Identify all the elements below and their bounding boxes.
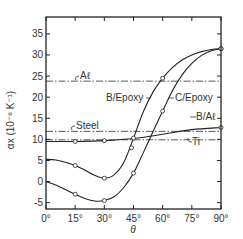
data-point-b-epoxy [73, 164, 77, 168]
x-axis-title: θ [130, 224, 136, 235]
svg-text:Steel: Steel [76, 120, 99, 131]
curves [46, 49, 221, 202]
y-tick-label: 10 [32, 134, 44, 145]
x-tick-label: 0° [41, 213, 51, 224]
data-point-c-epoxy [132, 171, 136, 175]
data-point-b-epoxy [161, 76, 165, 80]
y-tick-label: 30 [32, 49, 44, 60]
data-point-c-epoxy [73, 192, 77, 196]
svg-text:B/Epoxy: B/Epoxy [106, 92, 143, 103]
y-tick-label: 5 [37, 155, 43, 166]
y-tick-label: 0 [37, 176, 43, 187]
svg-text:B/Aℓ: B/Aℓ [196, 111, 216, 122]
x-tick-label: 15° [68, 213, 83, 224]
y-axis-title: αx (10⁻⁶ K⁻¹) [5, 91, 16, 149]
y-tick-label: 35 [32, 28, 44, 39]
annotation-al: Aℓ [75, 70, 90, 81]
annotation-b-al: B/Aℓ [190, 111, 216, 122]
series-line-b-epoxy [46, 49, 221, 179]
y-tick-label: 25 [32, 71, 44, 82]
y-tick-label: 15 [32, 113, 44, 124]
svg-text:C/Epoxy: C/Epoxy [175, 92, 213, 103]
data-point-c-epoxy [102, 199, 106, 203]
annotation-c-epoxy: C/Epoxy [168, 92, 213, 103]
svg-text:Aℓ: Aℓ [80, 70, 91, 81]
data-point-b-al [73, 139, 77, 143]
annotation-steel: Steel [71, 120, 98, 131]
data-point-b-epoxy [102, 176, 106, 180]
chart: 0°15°30°45°60°75°90° -505101520253035 θ … [0, 0, 243, 239]
annotation-b-epoxy: B/Epoxy [106, 92, 151, 103]
series-line-c-epoxy [46, 49, 221, 202]
data-point-b-al [102, 139, 106, 143]
y-tick-label: 20 [32, 92, 44, 103]
x-tick-label: 75° [184, 213, 199, 224]
svg-text:Ti: Ti [192, 136, 200, 147]
y-axis: -505101520253035 [32, 28, 221, 208]
data-point-b-al [130, 146, 134, 150]
x-tick-label: 30° [97, 213, 112, 224]
x-tick-label: 90° [213, 213, 228, 224]
reference-lines [46, 81, 221, 140]
data-point-b-epoxy [132, 136, 136, 140]
x-tick-label: 60° [155, 213, 170, 224]
plot-frame [46, 17, 221, 209]
annotation-ti: Ti [188, 136, 200, 147]
x-tick-label: 45° [126, 213, 141, 224]
y-tick-label: -5 [34, 197, 43, 208]
data-point-c-epoxy [161, 109, 165, 113]
